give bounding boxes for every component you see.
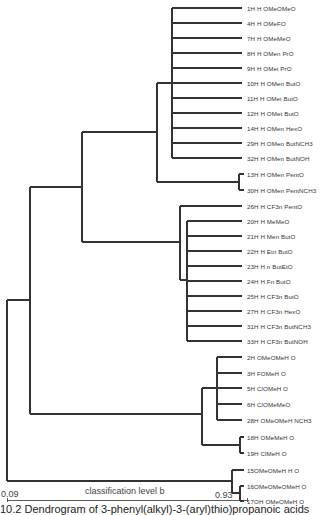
leaf-label: 5H ClOMeH O	[247, 385, 288, 392]
leaf-label: 27H H CF3n HexO	[247, 308, 300, 315]
leaf-label: 21H H Men ButO	[247, 233, 296, 240]
leaf-label: 23H H n ButEtO	[247, 263, 293, 270]
leaf-label: 7H H OMeMeO	[247, 35, 291, 42]
leaf-label: 32H H OMen ButNOH	[247, 155, 310, 162]
cluster-b-branches	[180, 206, 242, 341]
leaf-label: 19H ClMeH O	[247, 450, 287, 457]
leaf-label: 12H H OMet ButO	[247, 110, 299, 117]
leaf-label: 10H H OMen ButO	[247, 80, 300, 87]
leaf-label: 30H H OMen PentNCH3	[247, 187, 316, 194]
axis-max-label: 0.93	[215, 490, 233, 500]
leaf-label: 33H H CF3n ButNOH	[247, 338, 308, 345]
figure-caption: 10.2 Dendrogram of 3-phenyl(alkyl)-3-(ar…	[0, 503, 309, 515]
leaf-label: 20H H MeMeO	[247, 218, 289, 225]
leaf-label: 6H ClOMeMeO	[247, 401, 290, 408]
leaf-label: 4H H OMeFO	[247, 20, 286, 27]
cluster-c-branches	[202, 357, 244, 453]
leaf-label: 9H H OMei PrO	[247, 65, 292, 72]
cluster-a-branches	[157, 8, 244, 190]
leaf-label: 29H H OMen ButNCH3	[247, 140, 313, 147]
leaf-label: 22H H Etn ButO	[247, 248, 293, 255]
cluster-d-branches	[232, 470, 244, 501]
leaf-label: 13H H OMen PentO	[247, 171, 304, 178]
leaf-label: 2H OMeOMeH O	[247, 354, 296, 361]
leaf-label: 28H OMeOMeH NCH3	[247, 417, 312, 424]
leaf-label: 14H H OMen HexO	[247, 125, 302, 132]
axis-title: classification level b	[85, 486, 165, 496]
leaf-label: 11H H OMei ButO	[247, 95, 298, 102]
leaf-label: 24H H Fn ButO	[247, 278, 291, 285]
leaf-label: 31H H CF3n ButNCH3	[247, 323, 311, 330]
axis-min-label: 0.09	[1, 489, 19, 499]
leaf-label: 1H H OMeOMeO	[247, 5, 296, 12]
leaf-label: 16OMeOMeOMeH O	[247, 483, 307, 490]
leaf-label: 25H H CF3n ButO	[247, 293, 299, 300]
leaf-label: 26H H CF3n PentO	[247, 203, 302, 210]
leaf-label: 3H FOMeH O	[247, 370, 286, 377]
leaf-label: 15OMeOMeH H O	[247, 467, 299, 474]
leaf-label: 18H OMeMeH O	[247, 434, 294, 441]
leaf-label: 8H H OMen PrO	[247, 50, 294, 57]
